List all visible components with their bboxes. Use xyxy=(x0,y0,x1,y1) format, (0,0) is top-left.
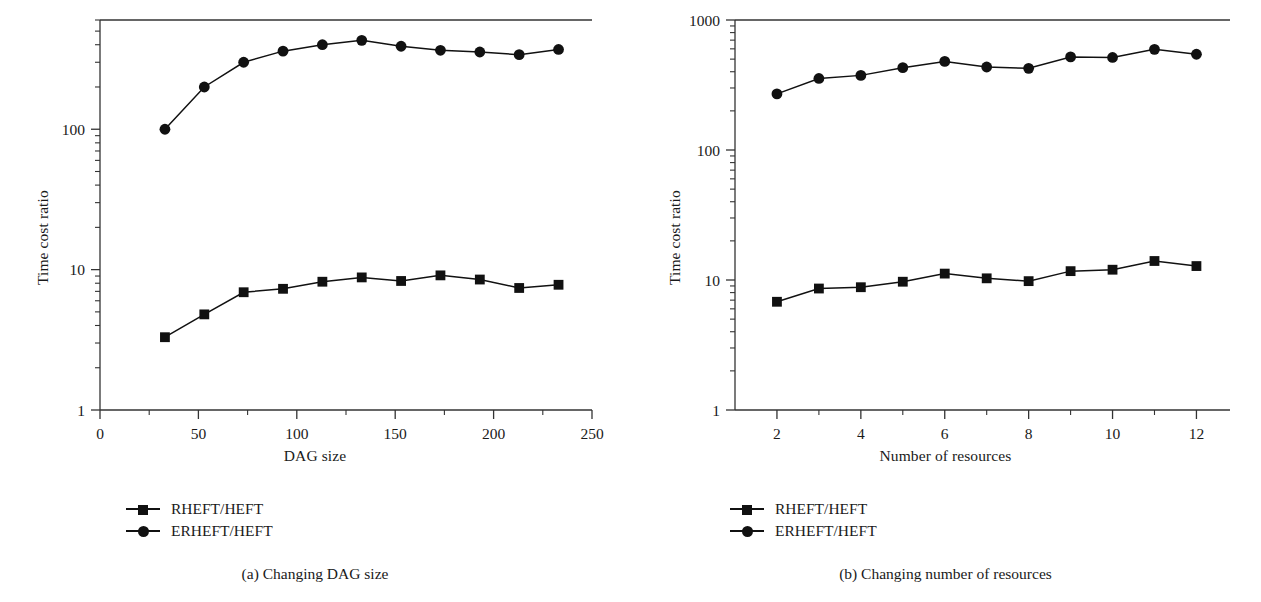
data-point-square xyxy=(554,280,564,290)
data-point-circle xyxy=(981,62,992,73)
x-tick-label: 12 xyxy=(1189,425,1205,442)
data-point-square xyxy=(239,287,249,297)
data-point-circle xyxy=(356,35,367,46)
data-point-circle xyxy=(278,46,289,57)
data-point-circle xyxy=(474,47,485,58)
data-point-square xyxy=(278,284,288,294)
data-point-square xyxy=(898,277,908,287)
x-tick-label: 0 xyxy=(96,425,104,442)
legend-item-rheft-b: RHEFT/HEFT xyxy=(730,498,877,520)
panel-caption-b: (b) Changing number of resources xyxy=(630,565,1261,583)
x-tick-label: 100 xyxy=(285,425,309,442)
data-point-square xyxy=(199,309,209,319)
data-point-circle xyxy=(553,44,564,55)
y-tick-label: 10 xyxy=(705,272,721,289)
data-point-square xyxy=(1150,256,1160,266)
x-axis-title-b: Number of resources xyxy=(630,447,1261,465)
legend-item-erheft-a: ERHEFT/HEFT xyxy=(126,520,273,542)
data-point-circle xyxy=(897,62,908,73)
x-tick-label: 8 xyxy=(1025,425,1033,442)
legend-item-erheft-b: ERHEFT/HEFT xyxy=(730,520,877,542)
data-point-circle xyxy=(514,49,525,60)
x-tick-label: 200 xyxy=(482,425,506,442)
data-point-square xyxy=(1108,265,1118,275)
data-point-square xyxy=(814,284,824,294)
data-point-circle xyxy=(396,41,407,52)
data-point-circle xyxy=(238,57,249,68)
plot-area-b: 110100100024681012 xyxy=(630,0,1261,470)
data-point-circle xyxy=(855,70,866,81)
data-point-square xyxy=(1192,261,1202,271)
data-point-square xyxy=(856,282,866,292)
x-tick-label: 250 xyxy=(580,425,604,442)
data-point-square xyxy=(1066,266,1076,276)
data-point-circle xyxy=(1065,52,1076,63)
legend-marker-circle-icon xyxy=(730,525,764,537)
legend-label-rheft: RHEFT/HEFT xyxy=(171,501,263,517)
y-axis-title-b: Time cost ratio xyxy=(666,190,684,285)
figure-root: 110100050100150200250 DAG size Time cost… xyxy=(0,0,1261,602)
legend-label-erheft: ERHEFT/HEFT xyxy=(775,523,877,539)
data-point-circle xyxy=(1149,44,1160,55)
data-point-square xyxy=(396,276,406,286)
legend-marker-circle-icon xyxy=(126,525,160,537)
data-point-square xyxy=(982,273,992,283)
y-tick-label: 1 xyxy=(77,402,85,419)
data-point-circle xyxy=(939,56,950,67)
x-tick-label: 2 xyxy=(773,425,781,442)
y-tick-label: 100 xyxy=(62,121,86,138)
panel-caption-a: (a) Changing DAG size xyxy=(0,565,630,583)
legend-marker-square-icon xyxy=(730,503,764,515)
legend-a: RHEFT/HEFT ERHEFT/HEFT xyxy=(126,498,273,542)
data-point-circle xyxy=(317,39,328,50)
x-tick-label: 50 xyxy=(191,425,207,442)
y-tick-label: 100 xyxy=(697,142,721,159)
legend-label-rheft: RHEFT/HEFT xyxy=(775,501,867,517)
x-axis-title-a: DAG size xyxy=(0,447,630,465)
data-point-square xyxy=(1024,276,1034,286)
data-point-circle xyxy=(814,73,825,84)
data-point-circle xyxy=(1023,63,1034,74)
data-point-circle xyxy=(199,82,210,93)
y-tick-label: 1000 xyxy=(689,12,720,29)
legend-b: RHEFT/HEFT ERHEFT/HEFT xyxy=(730,498,877,542)
data-point-square xyxy=(475,275,485,285)
data-point-square xyxy=(436,270,446,280)
x-tick-label: 150 xyxy=(384,425,408,442)
legend-marker-square-icon xyxy=(126,503,160,515)
y-axis-title-a: Time cost ratio xyxy=(34,190,52,285)
plot-area-a: 110100050100150200250 xyxy=(0,0,630,470)
data-point-circle xyxy=(435,45,446,56)
series-line-rheft-heft xyxy=(165,275,559,337)
data-point-circle xyxy=(1107,52,1118,63)
data-point-square xyxy=(772,297,782,307)
y-tick-label: 1 xyxy=(712,402,720,419)
legend-item-rheft-a: RHEFT/HEFT xyxy=(126,498,273,520)
legend-label-erheft: ERHEFT/HEFT xyxy=(171,523,273,539)
data-point-square xyxy=(940,269,950,279)
series-line-erheft-heft xyxy=(165,40,559,129)
x-tick-label: 6 xyxy=(941,425,949,442)
data-point-circle xyxy=(1191,49,1202,60)
data-point-circle xyxy=(160,124,171,135)
chart-panel-a: 110100050100150200250 DAG size Time cost… xyxy=(0,0,630,602)
y-tick-label: 10 xyxy=(70,261,86,278)
x-tick-label: 10 xyxy=(1105,425,1121,442)
data-point-square xyxy=(160,332,170,342)
data-point-circle xyxy=(772,89,783,100)
chart-panel-b: 110100100024681012 Number of resources T… xyxy=(630,0,1261,602)
data-point-square xyxy=(317,277,327,287)
data-point-square xyxy=(514,283,524,293)
x-tick-label: 4 xyxy=(857,425,865,442)
data-point-square xyxy=(357,273,367,283)
